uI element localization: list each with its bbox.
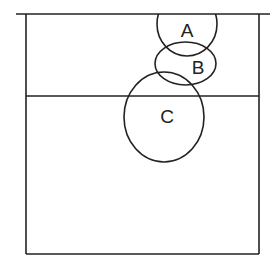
label-a: A [181,20,194,41]
label-b: B [192,57,205,78]
diagram-canvas: A B C [0,0,277,278]
label-c: C [160,106,174,127]
